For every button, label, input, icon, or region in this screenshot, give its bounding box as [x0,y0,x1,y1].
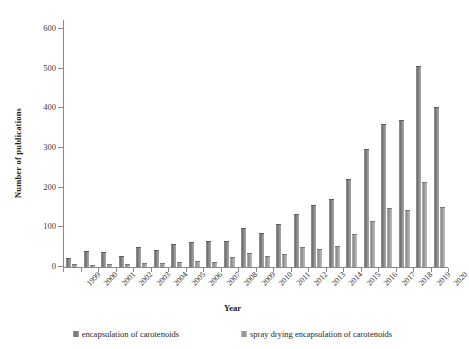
bar-group [63,29,81,267]
bar-group [256,29,274,267]
bar-series-1 [294,214,299,267]
bar-series-1 [276,224,281,267]
bar-series-2 [125,264,130,267]
bar-series-1 [346,179,351,267]
y-axis-tick-label: 500 [43,63,56,73]
bar-series-1 [399,120,404,267]
bar-series-2 [72,264,77,267]
x-axis-tick-label: 2020 [452,270,469,288]
y-axis-tick-label: 300 [43,142,56,152]
x-axis-tick-label: 2005 [189,270,207,288]
y-axis-tick-label: 600 [43,23,56,33]
x-axis-tick-label: 2006 [207,270,225,288]
bar-series-2 [177,262,182,267]
x-axis-tick-label: 2015 [364,270,382,288]
x-axis-tick-label: 2008 [242,270,260,288]
x-axis-tick-label: 2002 [137,270,155,288]
x-axis-title: Year [0,303,465,313]
bar-series-1 [119,256,124,267]
bar-group [326,29,344,267]
bar-group [361,29,379,267]
bar-series-2 [352,234,357,267]
x-axis-tick-label: 2013 [329,270,347,288]
bar-group [343,29,361,267]
chart-legend: encapsulation of carotenoids spray dryin… [0,324,465,344]
bar-series-1 [381,124,386,267]
bar-series-2 [265,256,270,267]
bar-series-2 [422,182,427,267]
y-axis-tick-label: 100 [43,221,56,231]
bar-series-1 [224,241,229,267]
plot-area: 0100200300400500600 [63,28,448,268]
bar-series-1 [364,149,369,267]
legend-swatch-icon [73,331,79,337]
bar-series-2 [387,208,392,267]
y-axis-tick-label: 200 [43,182,56,192]
legend-item-series-2: spray drying encapsulation of carotenoid… [241,324,392,344]
bar-series-2 [195,261,200,267]
bar-series-2 [370,221,375,267]
bar-series-2 [440,207,445,268]
bar-series-2 [90,265,95,267]
x-axis-tick-label: 2001 [119,270,137,288]
bar-group [238,29,256,267]
x-axis-tick-label: 2016 [382,270,400,288]
bar-group [308,29,326,267]
bar-group [151,29,169,267]
bar-group [186,29,204,267]
bar-group [203,29,221,267]
bar-series-2 [300,247,305,267]
bar-series-2 [160,263,165,267]
x-axis-tick-label: 2011 [294,270,311,287]
x-axis-tick-label: 2003 [154,270,172,288]
y-axis-tick-label: 0 [52,261,56,271]
x-axis-tick-label: 2018 [417,270,435,288]
x-axis-tick-label: 1999 [84,270,102,288]
x-axis-tick-label: 2017 [399,270,417,288]
bar-group [431,29,449,267]
bar-group [413,29,431,267]
bar-group [396,29,414,267]
x-axis-tick-label: 2009 [259,270,277,288]
bar-series-2 [230,257,235,267]
bar-group [116,29,134,267]
bar-group [273,29,291,267]
bar-series-2 [317,249,322,267]
bar-series-2 [405,210,410,267]
bar-series-2 [247,253,252,267]
bar-series-1 [241,228,246,267]
bar-group [168,29,186,267]
bar-groups [63,29,448,267]
bar-series-1 [154,250,159,267]
x-axis-tick-label: 2000 [102,270,120,288]
bar-series-1 [171,244,176,267]
bar-series-1 [206,241,211,267]
bar-group [81,29,99,267]
bar-series-1 [66,258,71,267]
y-axis-title: Number of publications [13,73,23,233]
bar-series-1 [101,252,106,267]
bar-series-2 [335,246,340,267]
bar-group [291,29,309,267]
bar-series-1 [189,242,194,267]
x-axis-tick-label: 2019 [434,270,452,288]
bar-series-1 [84,251,89,267]
y-axis-tick-label: 400 [43,102,56,112]
x-axis-tick-label: 2014 [347,270,365,288]
legend-swatch-icon [241,331,247,337]
bar-series-2 [212,262,217,267]
bar-series-1 [259,233,264,267]
x-axis-tick-label: 2010 [277,270,295,288]
x-axis-tick-label: 2004 [172,270,190,288]
bar-group [98,29,116,267]
legend-label-series-1: encapsulation of carotenoids [82,329,179,339]
bar-group [133,29,151,267]
bar-series-1 [434,107,439,267]
bar-series-2 [282,254,287,267]
bar-group [378,29,396,267]
x-axis-tick-labels: 1999200020012002200320042005200620072008… [63,270,448,303]
bar-series-1 [311,205,316,267]
legend-item-series-1: encapsulation of carotenoids [73,324,179,344]
bar-series-2 [107,264,112,267]
bar-series-1 [136,247,141,267]
